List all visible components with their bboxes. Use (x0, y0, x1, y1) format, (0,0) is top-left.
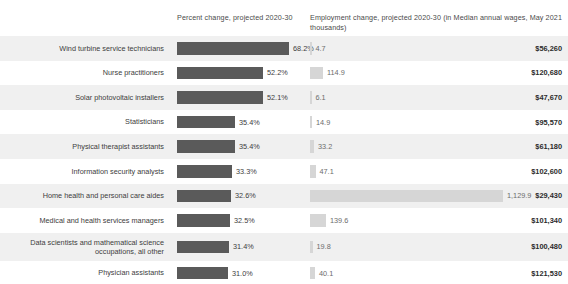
employment-change-bar (310, 165, 316, 178)
employment-change-bar (310, 116, 312, 129)
percent-change-value: 31.4% (233, 242, 254, 251)
column-header-median-wages: Median annual wages, May 2021 (440, 13, 562, 23)
percent-change-cell: 52.1% (177, 85, 288, 110)
employment-change-bar (310, 267, 315, 280)
table-row: Statisticians35.4%14.9$95,570 (0, 110, 568, 135)
employment-change-cell: 6.1 (310, 85, 326, 110)
table-row: Home health and personal care aides32.6%… (0, 184, 568, 209)
percent-change-cell: 32.5% (177, 208, 255, 233)
median-wage-value: $56,260 (535, 36, 562, 61)
employment-change-cell: 33.2 (310, 134, 332, 159)
column-header-percent-change: Percent change, projected 2020-30 (177, 13, 302, 23)
employment-change-value: 6.1 (316, 93, 326, 102)
employment-change-cell: 1,129.9 (310, 184, 531, 209)
percent-change-cell: 52.2% (177, 61, 288, 86)
median-wage-value: $121,530 (531, 261, 562, 284)
table-row: Wind turbine service technicians68.2%4.7… (0, 36, 568, 61)
percent-change-value: 33.3% (236, 167, 257, 176)
employment-change-value: 4.7 (316, 44, 326, 53)
employment-change-bar (310, 140, 314, 153)
percent-change-value: 52.2% (267, 68, 288, 77)
percent-change-cell: 32.6% (177, 184, 256, 209)
employment-change-cell: 40.1 (310, 261, 333, 284)
percent-change-value: 35.4% (239, 118, 260, 127)
median-wage-value: $100,480 (531, 233, 562, 261)
percent-change-bar (177, 190, 231, 203)
employment-change-bar (310, 214, 326, 227)
occupation-label: Wind turbine service technicians (4, 36, 170, 61)
employment-change-cell: 47.1 (310, 159, 334, 184)
employment-change-value: 14.9 (316, 118, 330, 127)
employment-change-value: 19.8 (317, 242, 331, 251)
employment-change-cell: 4.7 (310, 36, 326, 61)
percent-change-cell: 35.4% (177, 110, 260, 135)
table-row: Information security analysts33.3%47.1$1… (0, 159, 568, 184)
employment-change-cell: 114.9 (310, 61, 345, 86)
median-wage-value: $102,600 (531, 159, 562, 184)
occupations-growth-chart: Percent change, projected 2020-30 Employ… (0, 0, 568, 284)
percent-change-bar (177, 116, 235, 129)
percent-change-cell: 35.4% (177, 134, 260, 159)
occupation-label: Physical therapist assistants (4, 134, 170, 159)
percent-change-bar (177, 140, 235, 153)
occupation-label: Solar photovoltaic installers (4, 85, 170, 110)
chart-header: Percent change, projected 2020-30 Employ… (0, 0, 568, 36)
percent-change-bar (177, 165, 232, 178)
employment-change-value: 47.1 (320, 167, 334, 176)
table-row: Data scientists and mathematical science… (0, 233, 568, 261)
percent-change-bar (177, 241, 229, 254)
percent-change-bar (177, 214, 230, 227)
occupation-label: Physician assistants (4, 261, 170, 284)
employment-change-bar (310, 42, 312, 55)
employment-change-value: 40.1 (319, 269, 333, 278)
employment-change-value: 114.9 (327, 68, 345, 77)
percent-change-cell: 31.4% (177, 233, 254, 261)
median-wage-value: $47,670 (535, 85, 562, 110)
percent-change-value: 35.4% (239, 142, 260, 151)
occupation-label: Statisticians (4, 110, 170, 135)
median-wage-value: $95,570 (535, 110, 562, 135)
employment-change-cell: 14.9 (310, 110, 330, 135)
table-row: Physician assistants31.0%40.1$121,530 (0, 261, 568, 284)
percent-change-cell: 68.2% (177, 36, 314, 61)
employment-change-cell: 139.6 (310, 208, 348, 233)
column-header-employment-change: Employment change, projected 2020-30 (in… (310, 13, 460, 32)
percent-change-value: 32.5% (234, 216, 255, 225)
percent-change-value: 31.0% (232, 269, 253, 278)
percent-change-bar (177, 91, 263, 104)
percent-change-value: 32.6% (235, 191, 256, 200)
occupation-label: Information security analysts (4, 159, 170, 184)
median-wage-value: $101,340 (531, 208, 562, 233)
percent-change-cell: 31.0% (177, 261, 253, 284)
employment-change-value: 33.2 (318, 142, 332, 151)
median-wage-value: $29,430 (535, 184, 562, 209)
occupation-label: Medical and health services managers (4, 208, 170, 233)
employment-change-value: 1,129.9 (507, 191, 531, 200)
employment-change-bar (310, 241, 313, 254)
percent-change-bar (177, 42, 289, 55)
percent-change-value: 52.1% (267, 93, 288, 102)
percent-change-cell: 33.3% (177, 159, 257, 184)
chart-rows: Wind turbine service technicians68.2%4.7… (0, 36, 568, 284)
occupation-label: Data scientists and mathematical science… (4, 233, 170, 261)
median-wage-value: $61,180 (535, 134, 562, 159)
occupation-label: Nurse practitioners (4, 61, 170, 86)
percent-change-bar (177, 267, 228, 280)
occupation-label: Home health and personal care aides (4, 184, 170, 209)
table-row: Medical and health services managers32.5… (0, 208, 568, 233)
employment-change-bar (310, 67, 323, 80)
table-row: Physical therapist assistants35.4%33.2$6… (0, 134, 568, 159)
employment-change-cell: 19.8 (310, 233, 331, 261)
employment-change-value: 139.6 (330, 216, 348, 225)
employment-change-bar (310, 91, 312, 104)
table-row: Solar photovoltaic installers52.1%6.1$47… (0, 85, 568, 110)
table-row: Nurse practitioners52.2%114.9$120,680 (0, 61, 568, 86)
median-wage-value: $120,680 (531, 61, 562, 86)
percent-change-bar (177, 67, 263, 80)
employment-change-bar (310, 190, 503, 203)
